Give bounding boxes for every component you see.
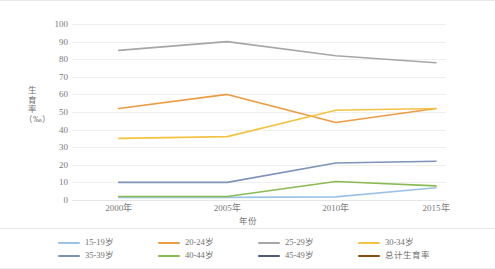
legend-label: 35-39岁 (85, 249, 114, 262)
y-tick-40: 40 (44, 125, 68, 134)
legend-item-40-44岁[interactable]: 40-44岁 (158, 249, 258, 262)
legend-swatch-icon (258, 242, 280, 244)
y-tick-90: 90 (44, 37, 68, 46)
y-tick-60: 60 (44, 90, 68, 99)
x-axis-title: 年份 (0, 216, 495, 226)
y-tick-0: 0 (44, 196, 68, 205)
legend-item-总计生育率[interactable]: 总计生育率 (358, 249, 458, 262)
legend-swatch-icon (158, 255, 180, 257)
y-tick-50: 50 (44, 108, 68, 117)
legend-swatch-icon (158, 242, 180, 244)
x-tick-2000: 2000年 (105, 203, 132, 214)
legend-label: 30-34岁 (385, 236, 414, 249)
legend-swatch-icon (358, 242, 380, 244)
series-line-40-44岁 (119, 182, 436, 197)
legend-label: 40-44岁 (185, 249, 214, 262)
y-tick-80: 80 (44, 55, 68, 64)
legend-label: 15-19岁 (85, 236, 114, 249)
y-tick-10: 10 (44, 178, 68, 187)
series-line-35-39岁 (119, 161, 436, 182)
legend-label: 25-29岁 (285, 236, 314, 249)
legend-item-25-29岁[interactable]: 25-29岁 (258, 236, 358, 249)
legend-swatch-icon (58, 242, 80, 244)
x-tick-2005: 2005年 (214, 203, 241, 214)
series-lines (72, 24, 446, 200)
y-tick-70: 70 (44, 72, 68, 81)
legend-item-20-24岁[interactable]: 20-24岁 (158, 236, 258, 249)
legend-item-45-49岁[interactable]: 45-49岁 (258, 249, 358, 262)
legend-separator (0, 228, 495, 229)
legend-swatch-icon (258, 255, 280, 257)
y-tick-100: 100 (44, 20, 68, 29)
legend-label: 总计生育率 (385, 249, 430, 262)
x-tick-2010: 2010年 (322, 203, 349, 214)
legend-item-30-34岁[interactable]: 30-34岁 (358, 236, 458, 249)
legend-item-15-19岁[interactable]: 15-19岁 (58, 236, 158, 249)
y-tick-20: 20 (44, 160, 68, 169)
series-line-25-29岁 (119, 42, 436, 63)
legend-item-35-39岁[interactable]: 35-39岁 (58, 249, 158, 262)
y-axis-title: 生育率（‰） (24, 86, 40, 124)
y-tick-30: 30 (44, 143, 68, 152)
x-axis-tick-labels: 2000年 2005年 2010年 2015年 (72, 203, 446, 217)
legend-swatch-icon (58, 255, 80, 257)
x-tick-2015: 2015年 (423, 203, 450, 214)
legend-swatch-icon (358, 255, 380, 257)
top-border (0, 0, 495, 1)
chart-legend: 15-19岁20-24岁25-29岁30-34岁35-39岁40-44岁45-4… (58, 236, 458, 262)
series-line-20-24岁 (119, 94, 436, 122)
legend-label: 20-24岁 (185, 236, 214, 249)
line-chart: 生育率（‰） 100 90 80 70 60 50 40 30 20 10 0 … (0, 0, 495, 269)
gridline-0 (72, 200, 446, 201)
y-axis-tick-labels: 100 90 80 70 60 50 40 30 20 10 0 (44, 24, 68, 200)
plot-area (72, 24, 446, 200)
series-line-30-34岁 (119, 108, 436, 138)
legend-label: 45-49岁 (285, 249, 314, 262)
